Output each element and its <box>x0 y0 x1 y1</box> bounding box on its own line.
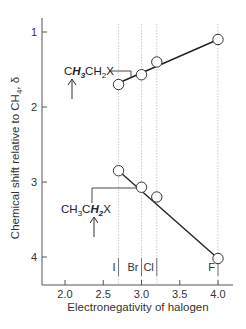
data-point <box>113 166 123 176</box>
halogen-label: Br <box>128 261 139 273</box>
data-point <box>152 192 162 202</box>
x-tick-label: 3.5 <box>172 288 187 300</box>
halogen-label: I <box>112 261 115 273</box>
data-point <box>136 182 146 192</box>
x-tick-label: 2.5 <box>96 288 111 300</box>
x-tick-label: 2.0 <box>57 288 72 300</box>
halogen-labels: IBrClF <box>112 258 218 276</box>
data-point <box>152 57 162 67</box>
fit-line <box>119 40 218 84</box>
y-tick-label: 3 <box>31 176 37 188</box>
y-tick-label: 2 <box>31 101 37 113</box>
y-tick-label: 4 <box>31 251 37 263</box>
data-point <box>113 79 123 89</box>
data-point <box>213 253 223 263</box>
y-ticks: 1234 <box>31 26 47 263</box>
data-point <box>213 34 223 44</box>
data-point <box>136 70 146 80</box>
series-label-ch2: CH3CH2X <box>61 188 136 237</box>
halogen-label: Cl <box>143 261 153 273</box>
chart: 1234 2.02.53.03.54.0 Electronegativity o… <box>0 0 246 329</box>
y-tick-label: 1 <box>31 26 37 38</box>
x-axis-title: Electronegativity of halogen <box>67 301 208 313</box>
y-axis-title: Chemical shift relative to CH4, δ <box>9 77 24 239</box>
series-ch3 <box>113 34 223 89</box>
leader-line <box>92 188 136 203</box>
fit-line <box>119 171 218 259</box>
halogen-label: F <box>208 261 215 273</box>
x-tick-label: 4.0 <box>210 288 225 300</box>
svg-text:CH3CH2X: CH3CH2X <box>64 65 114 80</box>
x-ticks: 2.02.53.03.54.0 <box>57 280 225 300</box>
svg-text:CH3CH2X: CH3CH2X <box>61 203 111 218</box>
x-tick-label: 3.0 <box>134 288 149 300</box>
series-ch2 <box>113 166 223 264</box>
